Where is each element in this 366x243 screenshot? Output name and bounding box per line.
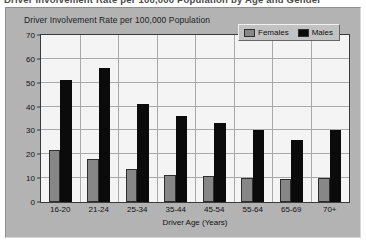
legend-swatch-males — [298, 29, 309, 37]
x-axis: 16-2021-2425-3435-4445-5455-6465-6970+ — [40, 205, 350, 219]
legend-entry-females: Females — [244, 28, 289, 37]
x-tick-label: 65-69 — [281, 205, 301, 214]
legend-swatch-females — [244, 29, 255, 37]
x-tick-label: 35-44 — [166, 205, 186, 214]
chart-legend: FemalesMales — [238, 24, 340, 41]
plot-area — [40, 34, 350, 203]
bar-males — [330, 130, 342, 202]
legend-label: Males — [312, 28, 333, 37]
legend-label: Females — [258, 28, 289, 37]
x-tick-label: 16-20 — [50, 205, 70, 214]
legend-entry-males: Males — [298, 28, 333, 37]
y-axis: 010203040506070 — [6, 34, 40, 205]
bar-females — [318, 178, 330, 202]
y-tick-label: 10 — [26, 174, 35, 183]
chart-title: Driver Involvement Rate per 100,000 Popu… — [24, 15, 210, 25]
x-tick-label: 55-64 — [243, 205, 263, 214]
y-tick-label: 30 — [26, 126, 35, 135]
y-tick-label: 60 — [26, 54, 35, 63]
y-tick-label: 50 — [26, 78, 35, 87]
x-tick-label: 45-54 — [204, 205, 224, 214]
y-tick-label: 0 — [31, 198, 35, 207]
cropped-caption-strip: Driver Involvement Rate per 100,000 Popu… — [0, 0, 366, 7]
x-tick-label: 70+ — [323, 205, 337, 214]
y-tick-label: 70 — [26, 31, 35, 40]
x-tick-label: 25-34 — [127, 205, 147, 214]
y-tick-label: 20 — [26, 150, 35, 159]
x-axis-title: Driver Age (Years) — [40, 218, 350, 227]
bar-group — [41, 35, 349, 202]
caption-text: Driver Involvement Rate per 100,000 Popu… — [4, 0, 321, 5]
chart-panel: Driver Involvement Rate per 100,000 Popu… — [5, 7, 361, 238]
y-tick-label: 40 — [26, 102, 35, 111]
x-tick-label: 21-24 — [89, 205, 109, 214]
